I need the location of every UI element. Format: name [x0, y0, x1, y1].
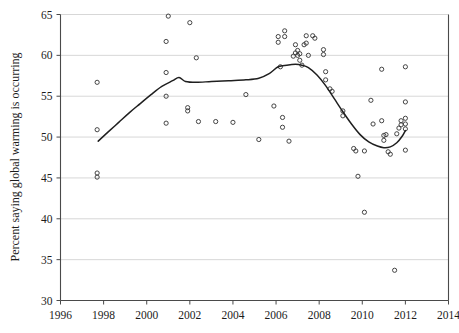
data-point — [304, 34, 308, 38]
scatter-plot: 3035404550556065 19961998200020022004200… — [0, 0, 459, 333]
x-tick-labels: 1996199820002002200420062008201020122014 — [49, 309, 459, 321]
data-point — [196, 119, 200, 123]
data-point — [321, 48, 325, 52]
data-point — [393, 268, 397, 272]
x-tick-label-2014: 2014 — [437, 309, 459, 321]
data-point — [369, 98, 373, 102]
tick-marks — [57, 15, 449, 305]
data-point — [293, 43, 297, 47]
data-point — [214, 119, 218, 123]
data-point — [298, 58, 302, 62]
data-point — [164, 121, 168, 125]
x-tick-label-2002: 2002 — [178, 309, 201, 321]
data-point — [380, 119, 384, 123]
data-point — [164, 70, 168, 74]
y-tick-label-55: 55 — [41, 90, 53, 102]
data-point — [95, 171, 99, 175]
data-point — [164, 39, 168, 43]
data-point — [283, 29, 287, 33]
data-point — [95, 175, 99, 179]
data-point — [403, 100, 407, 104]
data-point — [403, 65, 407, 69]
data-point — [283, 34, 287, 38]
y-axis-title: Percent saying global warming is occurri… — [8, 53, 22, 262]
data-point — [362, 210, 366, 214]
y-tick-labels: 3035404550556065 — [41, 9, 53, 307]
data-point — [403, 122, 407, 126]
data-point — [362, 149, 366, 153]
data-point — [272, 104, 276, 108]
y-tick-label-50: 50 — [41, 131, 53, 143]
data-point — [395, 132, 399, 136]
x-tick-label-2000: 2000 — [135, 309, 158, 321]
y-tick-label-35: 35 — [41, 254, 53, 266]
x-tick-label-2004: 2004 — [221, 309, 244, 321]
data-point — [231, 120, 235, 124]
data-points — [95, 14, 407, 272]
y-tick-label-30: 30 — [41, 295, 53, 307]
data-point — [380, 67, 384, 71]
data-point — [324, 70, 328, 74]
trend-curve-path — [98, 64, 405, 147]
data-point — [280, 125, 284, 129]
x-tick-label-2010: 2010 — [351, 309, 374, 321]
y-tick-label-45: 45 — [41, 172, 53, 184]
chart-container: 3035404550556065 19961998200020022004200… — [0, 0, 459, 333]
y-tick-label-60: 60 — [41, 49, 53, 61]
data-point — [194, 56, 198, 60]
data-point — [371, 122, 375, 126]
data-point — [382, 138, 386, 142]
grid-lines — [61, 15, 449, 260]
trend-curve — [98, 64, 405, 147]
x-tick-label-1996: 1996 — [49, 309, 72, 321]
x-tick-label-2008: 2008 — [308, 309, 331, 321]
data-point — [276, 34, 280, 38]
y-tick-label-40: 40 — [41, 213, 53, 225]
x-tick-label-2006: 2006 — [265, 309, 288, 321]
x-tick-label-2012: 2012 — [394, 309, 417, 321]
data-point — [399, 119, 403, 123]
axis-titles: Percent saying global warming is occurri… — [8, 53, 22, 262]
data-point — [95, 80, 99, 84]
y-tick-label-65: 65 — [41, 9, 53, 21]
data-point — [95, 128, 99, 132]
data-point — [403, 116, 407, 120]
data-point — [188, 21, 192, 25]
data-point — [321, 52, 325, 56]
data-point — [399, 123, 403, 127]
data-point — [403, 148, 407, 152]
x-tick-label-1998: 1998 — [92, 309, 115, 321]
data-point — [280, 115, 284, 119]
data-point — [324, 78, 328, 82]
axis-lines — [61, 15, 449, 301]
data-point — [257, 137, 261, 141]
data-point — [276, 40, 280, 44]
data-point — [287, 139, 291, 143]
